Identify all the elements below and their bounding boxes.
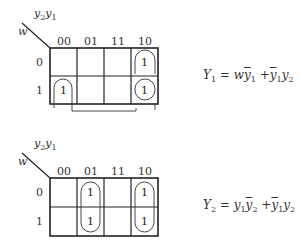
- row-variable-label: w: [18, 26, 27, 37]
- col-header-01: 01: [84, 166, 98, 177]
- column-variables-label: y2y1: [34, 138, 57, 152]
- cell-r1-c10: 1: [131, 216, 158, 227]
- col-header-00: 00: [57, 166, 71, 177]
- row-header-0: 0: [36, 57, 43, 68]
- col-header-01: 01: [84, 36, 98, 47]
- row-header-1: 1: [36, 216, 43, 227]
- cell-r1-c00: 1: [50, 85, 77, 96]
- equation-y1: Y1 = wy1 +y1y2: [203, 68, 294, 84]
- col-header-11: 11: [111, 36, 125, 47]
- cell-r1-c10: 1: [131, 85, 158, 96]
- column-variables-label: y2y1: [34, 8, 57, 22]
- group-wrap-connector: [72, 108, 136, 111]
- col-header-10: 10: [138, 166, 152, 177]
- equation-y2: Y2 = y1y2 +y1y2: [203, 198, 295, 214]
- row-header-0: 0: [36, 187, 43, 198]
- col-header-00: 00: [57, 36, 71, 47]
- cell-r0-c01: 1: [77, 187, 104, 198]
- col-header-11: 11: [111, 166, 125, 177]
- kmap-y1: y2y1 w 00 01 11 10 0 1 1 1 1 Y1 = wy1 +y…: [0, 0, 306, 120]
- kmap-y2: y2y1 w 00 01 11 10 0 1 1 1 1 1 Y2 = y1y2…: [0, 130, 306, 243]
- row-variable-label: w: [18, 156, 27, 167]
- cell-r1-c01: 1: [77, 216, 104, 227]
- cell-r0-c10: 1: [131, 187, 158, 198]
- row-header-1: 1: [36, 85, 43, 96]
- cell-r0-c10: 1: [131, 57, 158, 68]
- col-header-10: 10: [138, 36, 152, 47]
